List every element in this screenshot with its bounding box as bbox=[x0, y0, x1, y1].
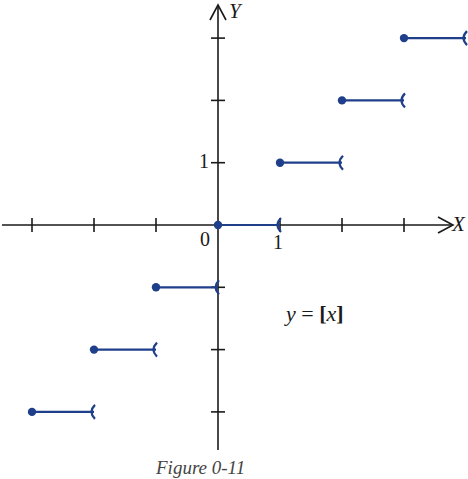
closed-endpoint-dot-icon bbox=[28, 408, 36, 416]
origin-label: 0 bbox=[200, 228, 210, 251]
step-segment bbox=[276, 156, 343, 170]
figure-caption: Figure 0-11 bbox=[156, 457, 245, 479]
equation-label: y = [x] bbox=[286, 301, 344, 327]
equation-bracket-open: [ bbox=[319, 301, 326, 326]
closed-endpoint-dot-icon bbox=[214, 221, 222, 229]
x-axis-label: X bbox=[452, 212, 465, 237]
y-tick-label-1: 1 bbox=[199, 150, 209, 173]
closed-endpoint-dot-icon bbox=[400, 34, 408, 42]
closed-endpoint-dot-icon bbox=[276, 159, 284, 167]
step-segment bbox=[152, 280, 219, 294]
step-segment bbox=[338, 93, 405, 107]
equation-equals: = bbox=[296, 301, 319, 326]
x-tick-label-1: 1 bbox=[273, 231, 283, 254]
y-axis-label: Y bbox=[229, 0, 241, 24]
step-segment bbox=[400, 31, 467, 45]
closed-endpoint-dot-icon bbox=[152, 283, 160, 291]
equation-x: x bbox=[327, 301, 337, 326]
axes bbox=[2, 5, 453, 450]
step-segment bbox=[28, 405, 95, 419]
step-segment bbox=[90, 343, 157, 357]
equation-y: y bbox=[286, 301, 296, 326]
equation-bracket-close: ] bbox=[336, 301, 343, 326]
closed-endpoint-dot-icon bbox=[90, 345, 98, 353]
closed-endpoint-dot-icon bbox=[338, 96, 346, 104]
step-segment bbox=[214, 218, 281, 232]
